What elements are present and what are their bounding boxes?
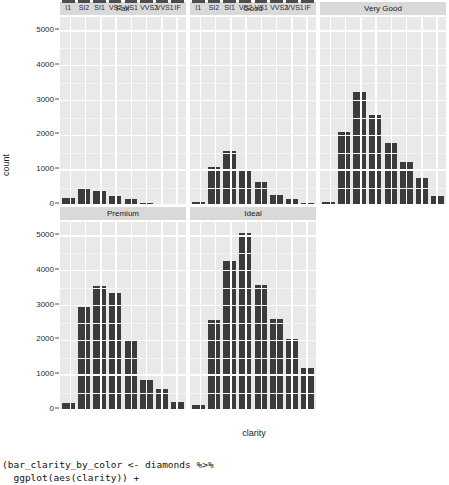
gridline-horizontal (60, 65, 186, 66)
x-axis-tick-label: VVS1 (156, 3, 169, 13)
y-axis-tick-mark (55, 168, 59, 169)
gridline-horizontal-minor (190, 188, 316, 189)
x-axis-tick-label: SI1 (93, 3, 106, 13)
x-axis-tick-label: VS2 (239, 3, 252, 13)
y-axis-tick-mark (55, 133, 59, 134)
y-axis-tick-mark (55, 233, 59, 234)
gridline-horizontal (320, 65, 446, 66)
gridline-vertical (70, 17, 71, 205)
ggplot-facet-chart: count 0100020003000400050000100020003000… (0, 0, 449, 450)
y-axis-tick-label: 0 (50, 404, 54, 413)
y-axis: count 0100020003000400050000100020003000… (0, 0, 60, 414)
gridline-vertical (375, 17, 376, 205)
gridline-horizontal-minor (60, 153, 186, 154)
y-axis-tick-label: 3000 (36, 299, 54, 308)
gridline-horizontal-minor (190, 253, 316, 254)
gridline-vertical (276, 17, 277, 205)
gridline-horizontal (190, 305, 316, 306)
gridline-horizontal (60, 340, 186, 341)
code-caption: (bar_clarity_by_color <- diamonds %>% gg… (2, 458, 214, 484)
gridline-horizontal-minor (190, 323, 316, 324)
gridline-horizontal-minor (190, 83, 316, 84)
y-axis-tick-label: 4000 (36, 59, 54, 68)
gridline-horizontal (190, 270, 316, 271)
gridline-horizontal (60, 409, 186, 410)
gridline-vertical (161, 222, 162, 410)
facet-row-top: Fair Good Very Good (60, 2, 447, 205)
y-axis-tick-mark (55, 408, 59, 409)
gridline-horizontal-minor (320, 188, 446, 189)
x-axis-tick-label: VS1 (255, 3, 268, 13)
facet-strip-label: Ideal (190, 207, 316, 220)
facet-strip-label: Premium (60, 207, 186, 220)
gridline-vertical (146, 17, 147, 205)
gridline-horizontal (190, 65, 316, 66)
gridline-vertical (391, 17, 392, 205)
gridline-vertical (421, 17, 422, 205)
x-axis-tick-label: SI1 (223, 3, 236, 13)
facet-strip-label: Very Good (320, 2, 446, 15)
facet-row-bottom: Premium Ideal (60, 207, 447, 410)
gridline-vertical (306, 17, 307, 205)
y-axis-title: count (1, 154, 11, 176)
gridline-horizontal-minor (60, 323, 186, 324)
y-axis-tick-mark (55, 98, 59, 99)
x-axis-tick-label: VS2 (109, 3, 122, 13)
gridline-vertical (436, 17, 437, 205)
gridline-vertical (230, 17, 231, 205)
x-axis-tick-label: SI2 (208, 3, 221, 13)
facet-panel-fair: Fair (60, 2, 186, 205)
facet-panel-premium: Premium (60, 207, 186, 410)
gridline-horizontal-minor (320, 48, 446, 49)
gridline-horizontal-minor (60, 288, 186, 289)
gridline-horizontal (60, 305, 186, 306)
x-axis-tick-label: VVS2 (270, 3, 283, 13)
gridline-vertical (291, 17, 292, 205)
gridline-horizontal (320, 169, 446, 170)
gridline-vertical (100, 17, 101, 205)
gridline-horizontal-minor (320, 118, 446, 119)
x-axis-tick-label: IF (301, 3, 314, 13)
gridline-horizontal-minor (60, 188, 186, 189)
gridline-vertical (131, 222, 132, 410)
gridline-vertical (276, 222, 277, 410)
gridline-horizontal (60, 169, 186, 170)
gridline-horizontal (60, 235, 186, 236)
y-axis-tick-mark (55, 338, 59, 339)
y-axis-tick-label: 2000 (36, 129, 54, 138)
gridline-horizontal (320, 135, 446, 136)
gridline-horizontal (320, 30, 446, 31)
gridline-vertical (115, 222, 116, 410)
gridline-horizontal-minor (190, 393, 316, 394)
plot-panel (320, 17, 446, 205)
gridline-horizontal-minor (320, 83, 446, 84)
x-axis-tick-label: VVS2 (140, 3, 153, 13)
plot-panel (60, 17, 186, 205)
x-axis-tick-label: VS1 (125, 3, 138, 13)
gridline-vertical (215, 222, 216, 410)
bar-series (190, 222, 316, 410)
gridline-vertical (261, 222, 262, 410)
gridline-horizontal-minor (60, 48, 186, 49)
bar-series (60, 17, 186, 205)
gridline-horizontal-minor (60, 393, 186, 394)
gridline-horizontal (320, 204, 446, 205)
gridline-horizontal-minor (60, 253, 186, 254)
gridline-horizontal (190, 204, 316, 205)
x-axis-tick-label: VVS1 (286, 3, 299, 13)
gridline-horizontal (190, 100, 316, 101)
bar-series (190, 17, 316, 205)
gridline-vertical (85, 222, 86, 410)
gridline-horizontal-minor (190, 118, 316, 119)
bar-series (60, 222, 186, 410)
facet-panel-ideal: Ideal (190, 207, 316, 410)
gridline-horizontal-minor (60, 83, 186, 84)
y-axis-tick-label: 3000 (36, 94, 54, 103)
gridline-horizontal (190, 30, 316, 31)
y-axis-tick-label: 2000 (36, 334, 54, 343)
gridline-horizontal (320, 100, 446, 101)
gridline-horizontal-minor (190, 153, 316, 154)
y-axis-tick-label: 5000 (36, 229, 54, 238)
facet-panel-grid: Fair Good Very Good Premium Ideal (60, 2, 447, 414)
y-axis-tick-mark (55, 268, 59, 269)
